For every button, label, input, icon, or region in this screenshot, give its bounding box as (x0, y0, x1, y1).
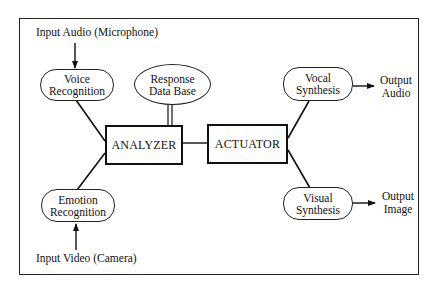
output-audio-line2: Audio (376, 87, 416, 100)
response-database-node: Response Data Base (134, 64, 211, 105)
vocal-synthesis-line2: Synthesis (296, 84, 340, 96)
line-actuator-vocal (288, 101, 309, 138)
vocal-synthesis-line1: Vocal (305, 72, 331, 84)
emotion-recognition-node: Emotion Recognition (41, 189, 115, 222)
analyzer-label: ANALYZER (111, 138, 176, 153)
actuator-node: ACTUATOR (207, 124, 288, 164)
line-actuator-visual (288, 150, 310, 188)
output-audio-label: Output Audio (376, 74, 416, 100)
voice-recognition-line1: Voice (64, 73, 90, 85)
visual-synthesis-node: Visual Synthesis (283, 187, 353, 220)
input-audio-label: Input Audio (Microphone) (36, 26, 158, 39)
output-image-line2: Image (378, 203, 418, 216)
response-database-line1: Response (150, 73, 194, 85)
vocal-synthesis-node: Vocal Synthesis (283, 67, 353, 101)
voice-recognition-node: Voice Recognition (40, 69, 114, 101)
actuator-label: ACTUATOR (215, 137, 280, 152)
visual-synthesis-line2: Synthesis (296, 204, 340, 216)
output-image-line1: Output (378, 190, 418, 203)
emotion-recognition-line1: Emotion (58, 194, 98, 206)
visual-synthesis-line1: Visual (303, 192, 332, 204)
line-emotion-analyzer (77, 153, 105, 190)
output-image-label: Output Image (378, 190, 418, 216)
analyzer-node: ANALYZER (105, 125, 183, 165)
emotion-recognition-line2: Recognition (50, 206, 106, 218)
line-voice-analyzer (76, 100, 105, 141)
output-audio-line1: Output (376, 74, 416, 87)
voice-recognition-line2: Recognition (49, 85, 105, 97)
response-database-line2: Data Base (149, 85, 196, 97)
input-video-label: Input Video (Camera) (36, 252, 137, 265)
